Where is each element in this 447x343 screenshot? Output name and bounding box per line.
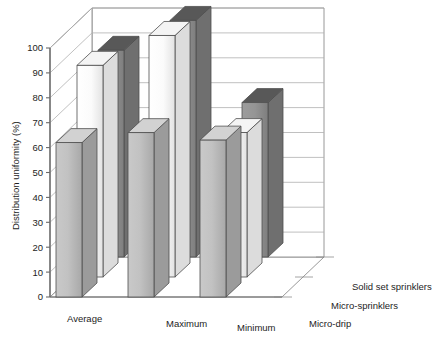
y-tick-label: 0: [38, 291, 43, 302]
y-tick-label: 40: [32, 192, 43, 203]
series-label-micro-drip: Micro-drip: [309, 318, 351, 329]
y-axis-title: Distribution uniformity (%): [10, 121, 21, 230]
category-label-minimum: Minimum: [237, 322, 276, 333]
bar-chart-3d: 0102030405060708090100 AverageMaximumMin…: [0, 0, 447, 343]
y-tick-label: 60: [32, 142, 43, 153]
y-tick-label: 20: [32, 242, 43, 253]
series-label-micro-sprinklers: Micro-sprinklers: [331, 300, 398, 311]
y-tick-label: 10: [32, 267, 43, 278]
bar-micro-drip-maximum: [128, 119, 169, 297]
y-tick-label: 70: [32, 117, 43, 128]
y-tick-label: 90: [32, 67, 43, 78]
series-label-solid-set-sprinklers: Solid set sprinklers: [352, 281, 432, 292]
bar-micro-drip-minimum: [200, 126, 241, 297]
chart-container: 0102030405060708090100 AverageMaximumMin…: [0, 0, 447, 343]
category-label-average: Average: [67, 313, 102, 324]
category-label-maximum: Maximum: [166, 318, 207, 329]
y-tick-label: 100: [27, 42, 43, 53]
bar-micro-drip-average: [56, 129, 97, 297]
y-tick-label: 30: [32, 217, 43, 228]
y-tick-label: 50: [32, 167, 43, 178]
y-tick-label: 80: [32, 92, 43, 103]
